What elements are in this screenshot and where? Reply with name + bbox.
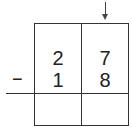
bottom-tens-digit: 1: [48, 70, 68, 90]
arrow-head-icon: [102, 14, 108, 20]
top-ones-digit: 7: [95, 48, 115, 68]
top-tens-digit: 2: [48, 48, 68, 68]
answer-ones-cell[interactable]: [82, 94, 128, 125]
answer-tens-cell[interactable]: [35, 94, 81, 125]
minus-sign: −: [12, 70, 23, 88]
bottom-ones-digit: 8: [95, 70, 115, 90]
